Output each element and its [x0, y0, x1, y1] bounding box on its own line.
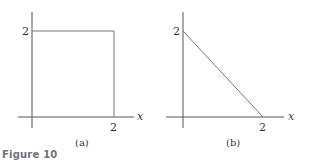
- panel-a-x-tick: 2: [110, 121, 117, 134]
- panel-b: 2 2 x (b): [166, 12, 295, 148]
- panel-b-diagonal-line: [183, 31, 263, 117]
- panel-b-caption: (b): [226, 137, 240, 148]
- panel-a-x-axis-label: x: [137, 110, 144, 123]
- figure-title: Figure 10: [2, 149, 57, 160]
- figure-10: 2 2 x (a) 2 2 x (b): [0, 0, 309, 164]
- panel-b-x-tick: 2: [259, 121, 266, 134]
- panel-a: 2 2 x (a): [18, 12, 144, 148]
- panel-a-caption: (a): [75, 137, 89, 148]
- panel-b-y-tick: 2: [173, 25, 180, 38]
- panel-a-square-edges: [32, 31, 114, 117]
- panel-a-y-tick: 2: [22, 25, 29, 38]
- panel-b-x-axis-label: x: [288, 110, 295, 123]
